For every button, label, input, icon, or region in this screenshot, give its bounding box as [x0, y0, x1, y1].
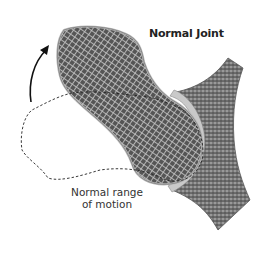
- caption-line-1: Normal range: [62, 186, 152, 198]
- motion-arrow-icon: [30, 45, 49, 102]
- diagram-title: Normal Joint: [149, 27, 224, 40]
- caption-line-2: of motion: [62, 198, 152, 210]
- range-of-motion-label: Normal range of motion: [62, 186, 152, 210]
- femur-bone: [57, 27, 202, 185]
